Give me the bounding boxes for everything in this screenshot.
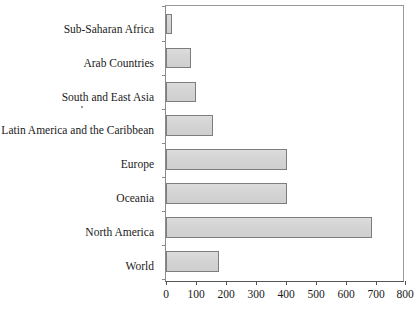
category-label-latin-america-and-the-caribbean: Latin America and the Caribbean xyxy=(1,124,154,137)
bar-oceania xyxy=(166,183,287,204)
x-axis-tick xyxy=(376,281,377,285)
x-axis-tick-label-800: 800 xyxy=(396,288,413,301)
category-label-north-america: North America xyxy=(85,226,154,239)
category-label-arab-countries: Arab Countries xyxy=(83,57,154,70)
x-axis-tick xyxy=(256,281,257,285)
x-axis-tick-label-100: 100 xyxy=(187,288,204,301)
x-axis-labels: 0 100 200 300 400 500 600 700 800 xyxy=(165,288,405,304)
y-axis-tick xyxy=(162,109,166,110)
x-axis-tick xyxy=(226,281,227,285)
bar-arab-countries xyxy=(166,48,191,68)
category-label-oceania: Oceania xyxy=(116,192,154,205)
plot-area xyxy=(165,5,404,282)
bar-world xyxy=(166,251,219,272)
bars-layer xyxy=(166,6,403,281)
bar-south-and-east-asia xyxy=(166,82,196,102)
x-axis-tick xyxy=(405,281,406,285)
bar-chart: Sub-Saharan Africa Arab Countries South … xyxy=(0,0,419,313)
x-axis-tick-label-600: 600 xyxy=(337,288,354,301)
x-axis-tick xyxy=(196,281,197,285)
x-axis-tick-label-200: 200 xyxy=(217,288,234,301)
y-axis-tick xyxy=(162,143,166,144)
bar-latin-america-and-the-caribbean xyxy=(166,115,213,136)
x-axis-tick-label-400: 400 xyxy=(277,288,294,301)
x-axis-tick-label-0: 0 xyxy=(163,288,169,301)
bar-sub-saharan-africa xyxy=(166,14,172,34)
y-axis-tick xyxy=(162,245,166,246)
scan-artifact-speck xyxy=(81,106,83,108)
category-label-south-and-east-asia: South and East Asia xyxy=(62,91,154,104)
x-axis-tick xyxy=(316,281,317,285)
category-label-sub-saharan-africa: Sub-Saharan Africa xyxy=(64,23,154,36)
x-axis-tick-label-700: 700 xyxy=(367,288,384,301)
bar-europe xyxy=(166,149,287,170)
y-axis-tick xyxy=(162,279,166,280)
x-axis-tick-label-300: 300 xyxy=(247,288,264,301)
x-axis-tick xyxy=(166,281,167,285)
y-axis-tick xyxy=(162,211,166,212)
category-label-world: World xyxy=(126,260,154,273)
y-axis-tick xyxy=(162,177,166,178)
y-axis-tick xyxy=(162,75,166,76)
y-axis-tick xyxy=(162,6,166,7)
x-axis-tick-label-500: 500 xyxy=(307,288,324,301)
x-axis-tick xyxy=(346,281,347,285)
category-label-europe: Europe xyxy=(121,158,154,171)
x-axis-tick xyxy=(286,281,287,285)
y-axis-tick xyxy=(162,41,166,42)
bar-north-america xyxy=(166,217,372,238)
category-axis-labels: Sub-Saharan Africa Arab Countries South … xyxy=(0,5,160,282)
